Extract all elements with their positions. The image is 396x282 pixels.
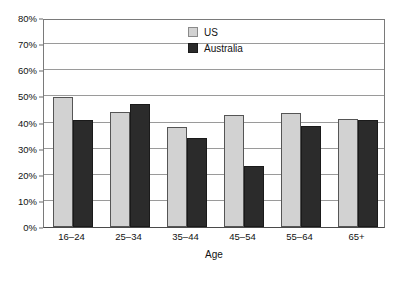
bar-chart: 0%10%20%30%40%50%60%70%80% US Australia … [0, 0, 396, 282]
bar-us [53, 97, 73, 227]
x-axis-tick-label: 55–64 [286, 231, 312, 243]
x-axis-tick-label: 45–54 [229, 231, 255, 243]
bar-australia [301, 126, 321, 227]
x-axis-tick-label: 35–44 [172, 231, 198, 243]
bar-australia [73, 120, 93, 227]
x-axis-tick-label: 16–24 [58, 231, 84, 243]
bar-us [281, 113, 301, 227]
x-axis-tick-label: 65+ [348, 231, 364, 243]
legend-swatch-us-icon [188, 27, 198, 37]
bar-us [224, 115, 244, 227]
bar-us [167, 127, 187, 227]
chart-legend: US Australia [188, 25, 308, 57]
y-axis-tick-label: 70% [18, 40, 37, 50]
legend-swatch-australia-icon [188, 43, 198, 53]
y-axis-tick-label: 40% [18, 119, 37, 129]
y-axis-tick-label: 80% [18, 14, 37, 24]
bar-us [338, 119, 358, 227]
y-axis: 0%10%20%30%40%50%60%70%80% [0, 19, 43, 228]
x-axis-tick-labels: 16–2425–3435–4445–5455–6465+ [43, 231, 385, 247]
legend-item-australia: Australia [188, 41, 308, 55]
bar-australia [130, 104, 150, 227]
bar-us [110, 112, 130, 227]
legend-label-australia: Australia [204, 43, 243, 54]
x-axis-tick-label: 25–34 [115, 231, 141, 243]
y-axis-tick-label: 0% [23, 223, 37, 233]
bar-australia [244, 166, 264, 227]
y-axis-tick-label: 50% [18, 92, 37, 102]
bar-australia [358, 120, 378, 227]
bar-australia [187, 138, 207, 227]
x-axis-title: Age [43, 249, 385, 261]
y-axis-tick-label: 10% [18, 197, 37, 207]
legend-label-us: US [204, 27, 218, 38]
y-axis-tick-label: 60% [18, 66, 37, 76]
legend-item-us: US [188, 25, 308, 39]
y-axis-tick-label: 30% [18, 145, 37, 155]
y-axis-tick-label: 20% [18, 171, 37, 181]
